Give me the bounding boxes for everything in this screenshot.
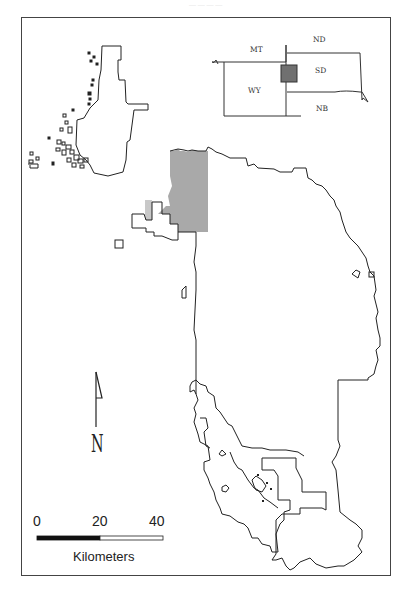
scale-tick-40: 40 (149, 513, 165, 529)
outlier-parcel (115, 240, 123, 248)
state-label-wy: WY (248, 86, 262, 95)
scale-unit-label: Kilometers (73, 549, 134, 564)
internal-boundary (190, 380, 304, 456)
main-unit (115, 147, 380, 570)
south-dakota-outline (287, 53, 368, 102)
state-label-mt: MT (250, 45, 263, 54)
state-label-sd: SD (315, 66, 326, 75)
study-area-locator (281, 65, 297, 82)
state-label-nb: NB (316, 104, 329, 113)
inset-locator-map (212, 45, 368, 116)
state-label-nd: ND (313, 35, 326, 44)
scale-tick-0: 0 (33, 513, 41, 529)
north-arrow-label: N (91, 430, 104, 458)
northwest-unit (28, 46, 148, 176)
light-shaded-area (145, 200, 152, 220)
shaded-area (158, 149, 208, 232)
map-canvas: MT ND SD WY NB (0, 0, 411, 594)
scale-tick-20: 20 (92, 513, 108, 529)
north-arrow-icon (96, 372, 102, 427)
scale-bar (37, 536, 163, 540)
